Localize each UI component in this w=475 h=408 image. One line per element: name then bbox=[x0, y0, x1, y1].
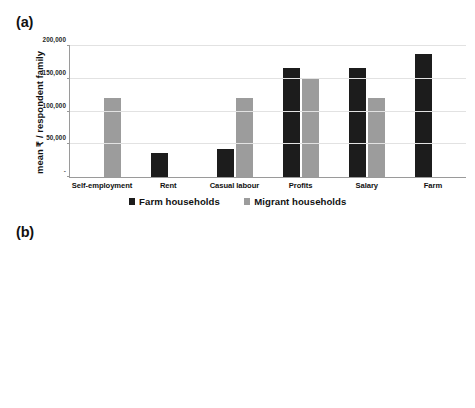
bar-farm bbox=[151, 153, 168, 177]
panel-b-tag: (b) bbox=[16, 224, 34, 240]
bar-group bbox=[268, 46, 334, 177]
bar-group bbox=[334, 46, 400, 177]
gridline bbox=[70, 45, 466, 46]
panel-a-legend: Farm households Migrant households bbox=[0, 196, 475, 207]
chart-panel-b: (b) mean ₹ / respondent family -10,00020… bbox=[0, 208, 475, 408]
x-axis-label: Self-employment bbox=[69, 181, 135, 192]
y-axis-tick-mark bbox=[67, 143, 70, 144]
legend-label-migrant-households: Migrant households bbox=[254, 196, 346, 207]
square-swatch-grey-icon bbox=[244, 198, 251, 205]
x-axis-label: Rent bbox=[135, 181, 201, 192]
panel-a-plot-area: -50,000100,000150,000200,000 bbox=[69, 46, 466, 178]
y-axis-tick-mark bbox=[67, 111, 70, 112]
y-axis-tick-mark bbox=[67, 78, 70, 79]
gridline bbox=[70, 143, 466, 144]
y-axis-tick-label: 200,000 bbox=[43, 36, 66, 43]
y-axis-tick-mark bbox=[67, 45, 70, 46]
x-axis-label: Farm bbox=[400, 181, 466, 192]
bar-farm bbox=[283, 68, 300, 177]
bar-migrant bbox=[302, 79, 319, 177]
bar-farm bbox=[349, 68, 366, 177]
panel-a-x-axis-labels: Self-employmentRentCasual labourProfitsS… bbox=[69, 181, 466, 192]
bar-group bbox=[202, 46, 268, 177]
bar-group bbox=[136, 46, 202, 177]
legend-item-migrant-households: Migrant households bbox=[244, 196, 347, 207]
legend-label-farm-households: Farm households bbox=[139, 196, 220, 207]
y-axis-tick-label: - bbox=[64, 167, 66, 174]
square-swatch-dark-icon bbox=[129, 198, 136, 205]
gridline bbox=[70, 111, 466, 112]
legend-item-farm-households: Farm households bbox=[129, 196, 220, 207]
x-axis-label: Profits bbox=[268, 181, 334, 192]
chart-panel-a: (a) mean ₹ / respondent family -50,00010… bbox=[0, 0, 475, 215]
x-axis-label: Casual labour bbox=[201, 181, 267, 192]
panel-a-tag: (a) bbox=[16, 14, 33, 30]
y-axis-tick-label: 100,000 bbox=[43, 101, 66, 108]
figure-container: (a) mean ₹ / respondent family -50,00010… bbox=[0, 0, 475, 408]
panel-a-bar-groups bbox=[70, 46, 466, 177]
gridline bbox=[70, 78, 466, 79]
bar-group bbox=[70, 46, 136, 177]
y-axis-tick-label: 50,000 bbox=[46, 134, 66, 141]
x-axis-label: Salary bbox=[334, 181, 400, 192]
bar-group bbox=[400, 46, 466, 177]
bar-farm bbox=[217, 149, 234, 177]
y-axis-tick-mark bbox=[67, 176, 70, 177]
bar-farm bbox=[415, 54, 432, 177]
y-axis-tick-label: 150,000 bbox=[43, 68, 66, 75]
